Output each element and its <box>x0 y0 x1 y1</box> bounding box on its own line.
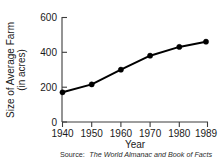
x-tick-label-1950: 1950 <box>81 128 104 139</box>
x-tick-label-1940: 1940 <box>51 128 74 139</box>
x-tick-group <box>63 122 208 127</box>
data-point-1980 <box>177 44 182 49</box>
y-tick-label-200: 200 <box>40 82 57 93</box>
chart-figure: Size of Average Farm (in acres) 600 400 … <box>0 0 218 159</box>
x-tick-label-1960: 1960 <box>110 128 133 139</box>
y-axis-label-sub: (in acres) <box>16 49 27 91</box>
data-point-1989 <box>203 39 208 44</box>
data-point-1960 <box>118 67 123 72</box>
line-chart: Size of Average Farm (in acres) 600 400 … <box>0 0 218 159</box>
x-tick-label-1980: 1980 <box>168 128 191 139</box>
x-tick-label-1989: 1989 <box>195 128 218 139</box>
source-value-text: The World Almanac and Book of Facts <box>89 150 212 159</box>
y-axis-label: Size of Average Farm <box>5 22 16 118</box>
x-tick-label-1970: 1970 <box>139 128 162 139</box>
y-tick-label-400: 400 <box>40 47 57 58</box>
y-tick-group <box>62 18 67 123</box>
source-label-text: Source: <box>60 150 85 159</box>
data-point-1950 <box>89 82 94 87</box>
data-series-line <box>63 42 207 93</box>
source-note: Source: The World Almanac and Book of Fa… <box>60 150 212 159</box>
y-tick-label-0: 0 <box>51 117 57 128</box>
y-tick-label-600: 600 <box>40 12 57 23</box>
x-axis-label: Year <box>125 139 146 150</box>
data-point-1940 <box>60 90 65 95</box>
data-point-1970 <box>148 53 153 58</box>
